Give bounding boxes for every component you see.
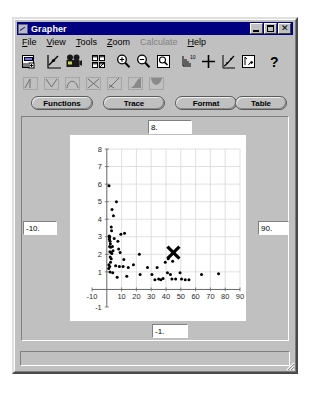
graph-panel: 8. -10. 90. -1. -10102030405060708090-11… [21, 116, 289, 341]
functions-button[interactable]: Functions [31, 96, 93, 110]
svg-text:70: 70 [206, 292, 214, 301]
zoom-box-icon[interactable] [154, 52, 173, 71]
format-button[interactable]: Format [175, 96, 237, 110]
menu-item-tools-rest: ools [80, 37, 97, 47]
filled-valley-icon [147, 75, 166, 92]
minimize-button[interactable] [250, 23, 263, 34]
trace-button[interactable]: Trace [103, 96, 165, 110]
svg-text:40: 40 [162, 292, 170, 301]
svg-text:10: 10 [190, 54, 196, 60]
svg-text:90: 90 [236, 292, 244, 301]
status-bar [20, 351, 290, 366]
svg-text:5: 5 [98, 197, 102, 206]
menu-item-help[interactable]: Help [182, 36, 211, 49]
y-min-input[interactable]: -1. [152, 324, 188, 338]
svg-text:30: 30 [147, 292, 155, 301]
menu-item-file[interactable]: File [17, 36, 42, 49]
table-button[interactable]: Table [235, 96, 287, 110]
scatter-plot-svg: -10102030405060708090-112345678 [70, 135, 246, 321]
statistics-plot-icon[interactable] [239, 52, 258, 71]
menu-item-zoom[interactable]: Zoom [102, 36, 135, 49]
resize-grip[interactable] [284, 360, 295, 371]
help-question-icon[interactable]: ? [264, 52, 283, 71]
menu-bar: File View Tools Zoom Calculate Help [17, 36, 293, 49]
svg-text:20: 20 [132, 292, 140, 301]
menu-item-file-rest: ile [28, 37, 37, 47]
window-title: Grapher [31, 24, 250, 34]
filled-peak-icon [126, 75, 145, 92]
x-max-input[interactable]: 90. [258, 221, 289, 235]
curve-type-toolbar [17, 73, 293, 93]
y-max-input[interactable]: 8. [148, 120, 192, 134]
movie-camera-icon[interactable] [64, 52, 83, 71]
arch-curve-icon [63, 75, 82, 92]
plot-data-points [107, 184, 220, 281]
svg-text:10: 10 [117, 292, 125, 301]
menu-item-help-rest: elp [194, 37, 206, 47]
zoom-out-icon[interactable] [134, 52, 153, 71]
svg-text:3: 3 [98, 232, 102, 241]
grapher-app-icon [18, 24, 28, 34]
x-min-input[interactable]: -10. [23, 221, 57, 235]
trace-marker-x [167, 247, 179, 259]
svg-text:4: 4 [98, 215, 102, 224]
grid-windows-icon[interactable] [89, 52, 108, 71]
crosshair-icon[interactable] [199, 52, 218, 71]
svg-text:1: 1 [98, 268, 102, 277]
regression-curve-icon[interactable] [219, 52, 238, 71]
scatter-plot-canvas[interactable]: -10102030405060708090-112345678 [70, 135, 246, 321]
grapher-window: Grapher File View Tools Zoom Calculate H… [12, 17, 298, 374]
svg-text:7: 7 [98, 162, 102, 171]
svg-text:80: 80 [221, 292, 229, 301]
mode-button-bar: Functions Trace Format Table [17, 93, 293, 114]
menu-item-zoom-rest: oom [112, 37, 130, 47]
slope-curve-icon [105, 75, 124, 92]
svg-text:-10: -10 [87, 292, 98, 301]
triangle-curve-icon [21, 75, 40, 92]
svg-text:60: 60 [191, 292, 199, 301]
menu-item-tools[interactable]: Tools [71, 36, 102, 49]
svg-text:8: 8 [98, 145, 102, 154]
v-curve-icon [42, 75, 61, 92]
svg-text:-1: -1 [95, 303, 102, 312]
main-toolbar: 10 ? [17, 50, 293, 73]
axes-scale-icon[interactable]: 10 [179, 52, 198, 71]
menu-item-view-rest: iew [52, 37, 66, 47]
plot-gridlines [107, 149, 240, 289]
plot-graph-icon[interactable] [44, 52, 63, 71]
svg-text:50: 50 [177, 292, 185, 301]
title-bar: Grapher [17, 22, 293, 35]
menu-item-calculate: Calculate [135, 36, 183, 49]
svg-text:2: 2 [98, 250, 102, 259]
new-document-icon[interactable] [19, 52, 38, 71]
close-button[interactable] [278, 23, 291, 34]
cross-curve-icon [84, 75, 103, 92]
maximize-button[interactable] [264, 23, 277, 34]
menu-item-view[interactable]: View [42, 36, 71, 49]
svg-text:?: ? [270, 54, 279, 70]
zoom-in-icon[interactable] [114, 52, 133, 71]
svg-text:6: 6 [98, 180, 102, 189]
